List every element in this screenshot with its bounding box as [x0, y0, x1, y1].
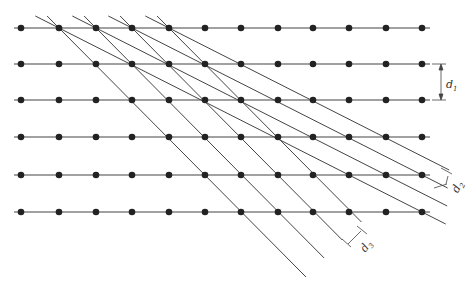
plane-family-d2 [35, 16, 449, 224]
atom [202, 25, 209, 32]
atom [310, 172, 317, 179]
atom [202, 209, 209, 216]
d2-label: d2 [449, 178, 468, 196]
lattice-atoms [18, 25, 426, 216]
atom [93, 25, 100, 32]
atom [419, 25, 426, 32]
atom [383, 97, 390, 104]
atom [310, 97, 317, 104]
atom [383, 209, 390, 216]
atom [383, 25, 390, 32]
d1-label: d1 [446, 78, 458, 93]
atom [202, 97, 209, 104]
atom [18, 134, 25, 141]
atom [202, 172, 209, 179]
atom [238, 25, 245, 32]
atom [166, 61, 173, 68]
atom [93, 172, 100, 179]
atom [18, 172, 25, 179]
atom [275, 209, 282, 216]
atom [275, 134, 282, 141]
atom [56, 97, 63, 104]
atom [56, 61, 63, 68]
atom [56, 172, 63, 179]
atom [129, 61, 136, 68]
atom [346, 61, 353, 68]
atom [275, 172, 282, 179]
d3-label: d3 [357, 237, 376, 255]
atom [93, 134, 100, 141]
atom [93, 209, 100, 216]
plane-line-shallow [35, 16, 445, 224]
atom [166, 172, 173, 179]
atom [129, 97, 136, 104]
plane-line-steep [157, 16, 361, 222]
atom [238, 172, 245, 179]
atom [310, 134, 317, 141]
plane-family-d3 [47, 16, 361, 277]
atom [238, 134, 245, 141]
atom [238, 209, 245, 216]
atom [310, 209, 317, 216]
atom [56, 25, 63, 32]
atom [166, 25, 173, 32]
atom [166, 209, 173, 216]
plane-line-shallow [72, 16, 447, 206]
atom [18, 61, 25, 68]
atom [383, 134, 390, 141]
atom [275, 25, 282, 32]
atom [18, 97, 25, 104]
atom [419, 209, 426, 216]
atom [419, 97, 426, 104]
d1-dimension [432, 64, 446, 100]
atom [383, 61, 390, 68]
atom [202, 61, 209, 68]
atom [346, 209, 353, 216]
atom [202, 134, 209, 141]
atom [129, 25, 136, 32]
atom [238, 61, 245, 68]
lattice-diagram: d1 d2 d3 [0, 0, 474, 296]
plane-line-steep [47, 16, 306, 277]
atom [18, 25, 25, 32]
atom [129, 134, 136, 141]
atom [275, 61, 282, 68]
atom [419, 172, 426, 179]
atom [346, 97, 353, 104]
atom [275, 97, 282, 104]
atom [129, 209, 136, 216]
atom [419, 61, 426, 68]
atom [310, 61, 317, 68]
atom [383, 172, 390, 179]
atom [129, 172, 136, 179]
plane-line-steep [120, 16, 342, 240]
atom [166, 134, 173, 141]
atom [346, 172, 353, 179]
atom [18, 209, 25, 216]
d2-dimension [434, 168, 452, 188]
atom [56, 209, 63, 216]
atom [310, 25, 317, 32]
atom [56, 134, 63, 141]
atom [346, 134, 353, 141]
atom [166, 97, 173, 104]
atom [238, 97, 245, 104]
atom [346, 25, 353, 32]
plane-line-shallow [145, 16, 449, 170]
atom [93, 97, 100, 104]
atom [419, 134, 426, 141]
atom [93, 61, 100, 68]
